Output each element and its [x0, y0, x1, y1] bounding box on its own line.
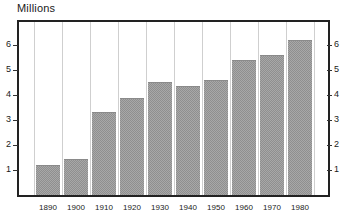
y-tick-left-5 [13, 70, 18, 71]
x-label-1890: 1890 [33, 203, 63, 212]
gridline-vertical [174, 22, 175, 195]
y-label-right-1: 1 [334, 164, 345, 174]
y-tick-right-2 [327, 145, 332, 146]
y-label-right-6: 6 [334, 39, 345, 49]
x-label-1950: 1950 [201, 203, 231, 212]
gridline-vertical [258, 22, 259, 195]
y-tick-left-6 [13, 45, 18, 46]
y-label-left-1: 1 [0, 164, 11, 174]
y-label-right-5: 5 [334, 64, 345, 74]
x-label-1910: 1910 [89, 203, 119, 212]
x-label-1930: 1930 [145, 203, 175, 212]
y-label-right-4: 4 [334, 89, 345, 99]
y-tick-left-2 [13, 145, 18, 146]
bar-1980 [288, 40, 312, 195]
bar-1950 [204, 80, 228, 195]
y-tick-left-1 [13, 170, 18, 171]
chart-title: Millions [17, 2, 55, 14]
bar-1970 [260, 55, 284, 195]
gridline-vertical [202, 22, 203, 195]
y-label-right-2: 2 [334, 139, 345, 149]
bar-1890 [36, 165, 60, 195]
gridline-vertical [62, 22, 63, 195]
gridline-vertical [286, 22, 287, 195]
y-tick-right-6 [327, 45, 332, 46]
bar-1930 [148, 82, 172, 195]
y-label-left-4: 4 [0, 89, 11, 99]
y-tick-left-4 [13, 95, 18, 96]
y-label-left-5: 5 [0, 64, 11, 74]
x-label-1940: 1940 [173, 203, 203, 212]
gridline-vertical [118, 22, 119, 195]
y-tick-right-5 [327, 70, 332, 71]
bar-1940 [176, 86, 200, 195]
y-label-left-6: 6 [0, 39, 11, 49]
x-label-1960: 1960 [229, 203, 259, 212]
y-tick-right-3 [327, 120, 332, 121]
y-label-left-3: 3 [0, 114, 11, 124]
plot-area [19, 22, 328, 195]
bar-1960 [232, 60, 256, 195]
gridline-vertical [34, 22, 35, 195]
bar-1910 [92, 112, 116, 195]
y-tick-right-4 [327, 95, 332, 96]
gridline-vertical [146, 22, 147, 195]
y-tick-left-3 [13, 120, 18, 121]
bar-1920 [120, 98, 144, 195]
x-label-1980: 1980 [285, 203, 315, 212]
y-label-left-2: 2 [0, 139, 11, 149]
y-label-right-3: 3 [334, 114, 345, 124]
x-label-1900: 1900 [61, 203, 91, 212]
gridline-vertical [90, 22, 91, 195]
gridline-vertical [230, 22, 231, 195]
x-label-1920: 1920 [117, 203, 147, 212]
x-label-1970: 1970 [257, 203, 287, 212]
y-tick-right-1 [327, 170, 332, 171]
bar-chart: Millions 123456 123456 18901900191019201… [0, 0, 345, 221]
gridline-vertical [314, 22, 315, 195]
bar-1900 [64, 159, 88, 195]
